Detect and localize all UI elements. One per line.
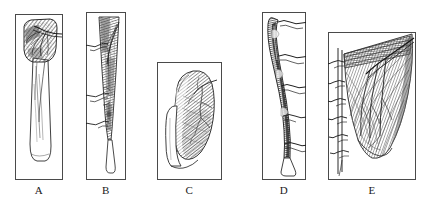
- panel-c: C: [157, 62, 222, 180]
- panel-b-label: B: [86, 184, 126, 196]
- anatomical-figure-plate: A: [0, 0, 428, 205]
- panel-a: A: [15, 14, 63, 180]
- panel-c-illustration: [157, 62, 222, 180]
- panel-e-illustration: [328, 32, 416, 180]
- panel-a-label: A: [15, 184, 63, 196]
- panel-b-illustration: [86, 12, 126, 180]
- panel-b: B: [86, 12, 126, 180]
- panel-d-illustration: [262, 12, 306, 180]
- panel-a-illustration: [15, 14, 63, 180]
- panel-d-label: D: [262, 184, 306, 196]
- panel-d: D: [262, 12, 306, 180]
- panel-e-label: E: [328, 184, 416, 196]
- panel-c-label: C: [157, 184, 222, 196]
- panel-e: E: [328, 32, 416, 180]
